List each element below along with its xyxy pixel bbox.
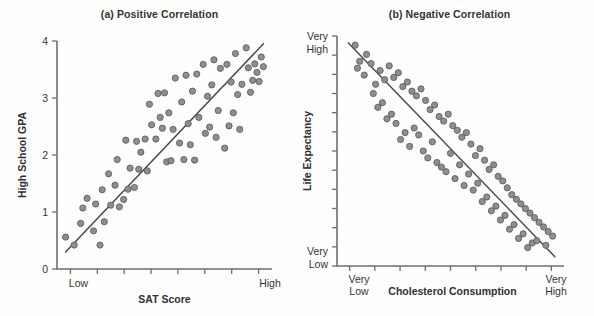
panel-b-data-point (466, 171, 472, 177)
panel-a-data-point (63, 234, 69, 240)
panel-b-data-point (488, 208, 494, 214)
panel-a-data-point (106, 171, 112, 177)
panel-a-data-point (258, 54, 264, 60)
panel-a-ylabel: High School GPA (16, 112, 28, 199)
panel-negative-correlation: (b) Negative Correlation VeryHighVeryLow… (297, 0, 594, 316)
panel-b-xtick-label-right-1: Very (545, 273, 567, 285)
panel-a-ytick-label: 1 (42, 206, 48, 218)
panel-b-data-point (456, 162, 462, 168)
panel-a-data-point (127, 165, 133, 171)
panel-b-data-point (422, 97, 428, 103)
panel-a-data-point (237, 126, 243, 132)
panel-a-data-point (136, 166, 142, 172)
panel-b-data-point (463, 130, 469, 136)
panel-b-data-point (461, 182, 467, 188)
panel-a-data-point (159, 125, 165, 131)
panel-a-data-point (153, 136, 159, 142)
panel-a-data-point (260, 64, 266, 70)
panel-a-data-point (131, 184, 137, 190)
panel-b-data-point (506, 226, 512, 232)
panel-a-data-point (179, 99, 185, 105)
panel-a-data-point (176, 140, 182, 146)
panel-b-data-point (472, 153, 478, 159)
figure-container: (a) Positive Correlation 01234LowHighSAT… (0, 0, 594, 316)
panel-b-data-point (386, 63, 392, 69)
panel-b-data-point (395, 70, 401, 76)
panel-a-data-point (114, 156, 120, 162)
panel-a-data-point (121, 196, 127, 202)
panel-a-data-point (254, 69, 260, 75)
panel-b-plot: VeryHighVeryLowVeryLowVeryHighCholestero… (297, 0, 594, 316)
panel-b-data-point (468, 141, 474, 147)
panel-b-data-point (397, 136, 403, 142)
panel-a-data-point (209, 82, 215, 88)
panel-a-data-point (90, 228, 96, 234)
panel-a-data-point (183, 72, 189, 78)
panel-a-data-point (243, 45, 249, 51)
panel-a-data-point (250, 77, 256, 83)
panel-a-data-point (80, 205, 86, 211)
panel-b-data-point (352, 42, 358, 48)
panel-b-data-point (411, 125, 417, 131)
panel-b-data-point (481, 157, 487, 163)
panel-a-ytick-label: 3 (42, 92, 48, 104)
panel-b-data-point (475, 180, 481, 186)
panel-a-data-point (211, 57, 217, 63)
panel-b-data-point (504, 185, 510, 191)
panel-a-data-point (232, 50, 238, 56)
panel-a-data-point (202, 130, 208, 136)
panel-b-data-point (357, 58, 363, 64)
panel-a-axes (57, 41, 272, 269)
panel-b-data-point (479, 199, 485, 205)
panel-a-data-point (155, 90, 161, 96)
panel-a-data-point (189, 88, 195, 94)
panel-a-data-point (123, 137, 129, 143)
panel-b-trend-line (348, 43, 555, 257)
panel-a-data-point (116, 204, 122, 210)
panel-b-data-point (516, 235, 522, 241)
panel-b-xtick-label-left-1: Very (348, 273, 370, 285)
panel-b-data-point (500, 178, 506, 184)
panel-b-data-point (404, 79, 410, 85)
panel-a-data-point (200, 61, 206, 67)
panel-b-data-point (393, 120, 399, 126)
panel-b-data-point (429, 139, 435, 145)
panel-b-data-point (418, 86, 424, 92)
panel-a-data-point (149, 122, 155, 128)
panel-b-ytick-label-top-1: Very (307, 30, 329, 42)
panel-b-data-point (382, 77, 388, 83)
panel-b-data-point (497, 217, 503, 223)
panel-a-data-point (97, 242, 103, 248)
panel-b-data-point (425, 155, 431, 161)
panel-a-data-point (239, 81, 245, 87)
panel-b-data-point (543, 242, 549, 248)
panel-b-data-point (420, 148, 426, 154)
panel-a-data-point (187, 142, 193, 148)
panel-a-data-point (222, 145, 228, 151)
panel-a-data-point (146, 101, 152, 107)
panel-a-data-point (168, 158, 174, 164)
panel-a-data-point (192, 157, 198, 163)
panel-a-xlabel: SAT Score (138, 293, 190, 305)
panel-a-data-point (170, 126, 176, 132)
panel-b-data-point (443, 169, 449, 175)
panel-b-data-point (413, 93, 419, 99)
panel-a-data-point (196, 114, 202, 120)
panel-a-plot: 01234LowHighSAT ScoreHigh School GPA (0, 0, 297, 316)
panel-a-data-point (181, 156, 187, 162)
panel-b-data-point (454, 127, 460, 133)
panel-a-data-point (138, 149, 144, 155)
panel-b-data-point (470, 187, 476, 193)
panel-b-ylabel: Life Expectancy (301, 111, 313, 191)
panel-b-data-point (550, 233, 556, 239)
panel-a-data-point (194, 71, 200, 77)
panel-b-data-point (375, 104, 381, 110)
panel-b-data-point (384, 116, 390, 122)
panel-a-data-point (133, 138, 139, 144)
panel-a-data-point (161, 90, 167, 96)
panel-b-data-point (432, 102, 438, 108)
panel-a-data-point (172, 75, 178, 81)
panel-a-data-point (84, 195, 90, 201)
panel-a-data-point (166, 110, 172, 116)
panel-a-data-point (224, 61, 230, 67)
